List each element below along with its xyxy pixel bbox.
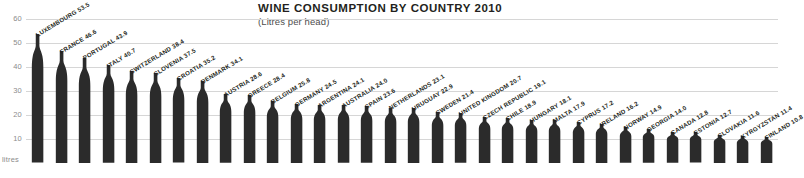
bar-australia[interactable] <box>336 105 351 163</box>
bar-malta[interactable] <box>547 120 562 163</box>
bar-denmark[interactable] <box>195 81 210 163</box>
y-tick-label-20: 20 <box>2 110 22 119</box>
wine-bottle-icon <box>383 108 398 164</box>
wine-bottle-icon <box>500 118 515 163</box>
bar-portugal[interactable] <box>77 58 92 164</box>
y-tick-label-10: 10 <box>2 134 22 143</box>
bar-france[interactable] <box>54 51 69 163</box>
bar-united-kingdom[interactable] <box>453 113 468 163</box>
plot-area: 102030405060 <box>26 14 778 163</box>
bar-hungary[interactable] <box>524 120 539 163</box>
bar-germany[interactable] <box>289 104 304 163</box>
bar-sweden[interactable] <box>430 112 445 163</box>
wine-bottle-icon <box>547 120 562 163</box>
wine-bottle-icon <box>524 120 539 163</box>
bar-czech-republic[interactable] <box>477 117 492 163</box>
wine-bottle-icon <box>336 105 351 163</box>
wine-bottle-icon <box>242 95 257 163</box>
wine-bottle-icon <box>453 113 468 163</box>
wine-bottle-icon <box>665 132 680 163</box>
y-tick-label-60: 60 <box>2 14 22 23</box>
wine-bottle-icon <box>571 122 586 163</box>
bar-italy[interactable] <box>101 65 116 163</box>
wine-bottle-icon <box>171 78 186 163</box>
bar-norway[interactable] <box>618 127 633 163</box>
bar-georgia[interactable] <box>641 129 656 163</box>
wine-bottle-icon <box>101 65 116 163</box>
wine-bottle-icon <box>477 117 492 163</box>
bar-switzerland[interactable] <box>124 71 139 163</box>
bar-croatia[interactable] <box>171 78 186 163</box>
wine-bottle-icon <box>359 106 374 163</box>
wine-bottle-icon <box>265 101 280 163</box>
wine-bottle-icon <box>641 129 656 163</box>
y-axis-unit-label: litres <box>2 155 19 164</box>
wine-bottle-icon <box>77 58 92 164</box>
wine-bottle-icon <box>618 127 633 163</box>
wine-bottle-icon <box>148 73 163 163</box>
wine-bottle-icon <box>594 124 609 163</box>
wine-bottle-icon <box>30 34 45 163</box>
y-tick-label-30: 30 <box>2 86 22 95</box>
y-tick-label-40: 40 <box>2 62 22 71</box>
wine-bottle-icon <box>312 105 327 163</box>
bar-cyprus[interactable] <box>571 122 586 163</box>
wine-bottle-icon <box>289 104 304 163</box>
bar-ireland[interactable] <box>594 124 609 163</box>
bar-austria[interactable] <box>218 94 233 163</box>
bar-belgium[interactable] <box>265 101 280 163</box>
bar-greece[interactable] <box>242 95 257 163</box>
wine-bottle-icon <box>406 108 421 163</box>
bar-estonia[interactable] <box>688 132 703 163</box>
wine-bottle-icon <box>124 71 139 163</box>
wine-bottle-icon <box>195 81 210 163</box>
bar-uruguay[interactable] <box>406 108 421 163</box>
bar-series <box>26 14 778 163</box>
wine-bottle-icon <box>430 112 445 163</box>
y-tick-label-50: 50 <box>2 38 22 47</box>
bar-netherlands[interactable] <box>383 108 398 164</box>
bar-argentina[interactable] <box>312 105 327 163</box>
wine-bottle-icon <box>688 132 703 163</box>
bar-luxembourg[interactable] <box>30 34 45 163</box>
bar-spain[interactable] <box>359 106 374 163</box>
bar-chile[interactable] <box>500 118 515 163</box>
bar-slovenia[interactable] <box>148 73 163 163</box>
wine-bottle-icon <box>54 51 69 163</box>
bar-canada[interactable] <box>665 132 680 163</box>
wine-bottle-icon <box>218 94 233 163</box>
